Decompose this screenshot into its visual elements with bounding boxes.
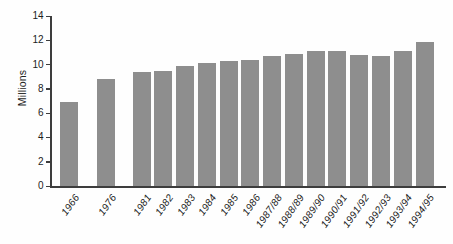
y-tick-mark-6: [46, 113, 51, 114]
bar-1987-88: [263, 56, 281, 186]
x-tick-label-1982: 1982: [153, 192, 175, 218]
x-tick-label-1966: 1966: [59, 192, 81, 218]
x-tick-label-1976: 1976: [96, 192, 118, 218]
bar-1982: [154, 71, 172, 186]
bar-1981: [133, 72, 151, 186]
bar-1991-92: [350, 55, 368, 186]
bar-1990-91: [328, 51, 346, 186]
x-tick-label-1984: 1984: [196, 192, 218, 218]
x-tick-label-1985: 1985: [218, 192, 240, 218]
bar-1984: [198, 63, 216, 186]
y-tick-label-8: 8: [18, 84, 44, 94]
y-tick-label-0: 0: [18, 181, 44, 191]
bar-1988-89: [285, 54, 303, 186]
bar-1994-95: [416, 42, 434, 187]
bar-1985: [220, 61, 238, 186]
y-tick-mark-8: [46, 88, 51, 89]
bar-1986: [241, 60, 259, 186]
bar-1989-90: [307, 51, 325, 186]
y-tick-mark-4: [46, 137, 51, 138]
y-tick-mark-0: [46, 186, 51, 187]
y-tick-mark-14: [46, 16, 51, 17]
y-tick-label-14: 14: [18, 11, 44, 21]
y-tick-mark-12: [46, 40, 51, 41]
bar-1992-93: [372, 56, 390, 186]
y-tick-label-2: 2: [18, 157, 44, 167]
bar-1976: [97, 79, 115, 186]
bar-chart-figure: Millions 0246810121419661976198119821983…: [0, 0, 453, 244]
y-tick-label-6: 6: [18, 108, 44, 118]
y-tick-label-4: 4: [18, 132, 44, 142]
x-tick-label-1983: 1983: [175, 192, 197, 218]
bar-1993-94: [394, 51, 412, 186]
y-tick-mark-10: [46, 64, 51, 65]
y-tick-mark-2: [46, 161, 51, 162]
x-tick-label-1981: 1981: [131, 192, 153, 218]
bar-1983: [176, 66, 194, 186]
y-tick-label-12: 12: [18, 35, 44, 45]
y-axis-line: [50, 16, 52, 187]
bar-1966: [60, 102, 78, 186]
y-tick-label-10: 10: [18, 60, 44, 70]
